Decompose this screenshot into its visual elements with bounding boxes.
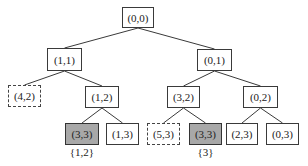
tree-edge: [215, 71, 261, 86]
goal-node: (3,3): [189, 123, 222, 145]
tree-node: (2,3): [226, 123, 258, 145]
tree-edge: [65, 28, 139, 48]
goal-node: (3,3): [65, 123, 99, 145]
node-annotation: {1,2}: [65, 146, 99, 158]
tree-edge: [82, 108, 102, 123]
tree-edge: [184, 108, 206, 123]
pruned-node: (5,3): [147, 123, 180, 145]
tree-node: (0,0): [122, 7, 154, 28]
tree-edge: [102, 108, 123, 123]
tree-edge: [65, 71, 103, 86]
tree-edge: [164, 108, 184, 123]
node-annotation: {3}: [189, 146, 222, 158]
tree-node: (0,2): [243, 86, 278, 108]
tree-node: (3,2): [167, 86, 200, 108]
tree-edge: [138, 28, 215, 49]
tree-node: (0,3): [266, 123, 299, 145]
pruned-node: (4,2): [8, 85, 41, 107]
tree-edge: [25, 71, 65, 85]
tree-node: (0,1): [197, 49, 232, 71]
tree-node: (1,1): [47, 48, 82, 71]
tree-edge: [184, 71, 215, 86]
tree-edge: [261, 108, 283, 123]
tree-node: (1,2): [85, 86, 119, 108]
tree-edge: [242, 108, 261, 123]
tree-node: (1,3): [106, 123, 139, 145]
